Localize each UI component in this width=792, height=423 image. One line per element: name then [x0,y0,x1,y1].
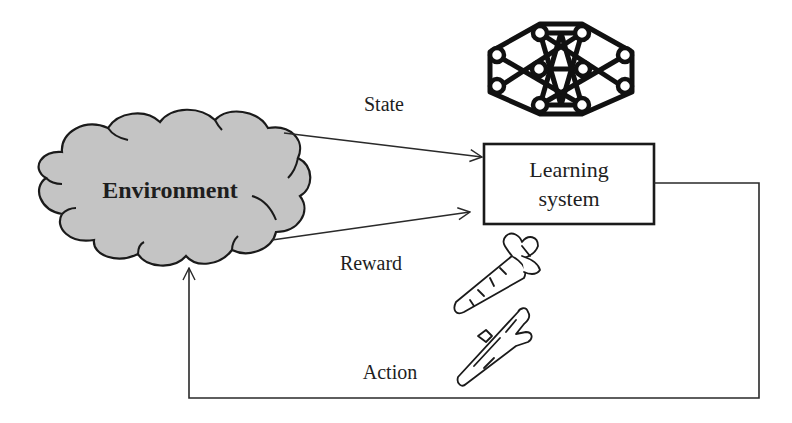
neural-network-icon [490,24,632,114]
learning-system-box: Learning system [484,144,654,224]
reward-label: Reward [340,252,402,274]
environment-cloud: Environment [39,110,311,266]
stick-icon [458,308,532,385]
learning-system-label-line2: system [538,186,599,211]
state-label: State [364,93,404,115]
learning-system-label-line1: Learning [529,157,608,182]
rl-diagram: Environment Learning system State Reward… [0,0,792,423]
action-label: Action [363,361,417,383]
state-arrow [284,133,482,157]
carrot-icon [454,234,540,314]
environment-label: Environment [102,177,238,203]
